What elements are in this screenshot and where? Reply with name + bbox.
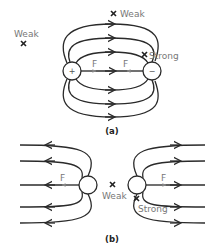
strong-label-a: Strong xyxy=(149,51,179,61)
left-charge xyxy=(79,176,97,194)
marker-weak-left: Weak xyxy=(14,29,39,46)
marker-strong-b: Strong xyxy=(134,196,168,214)
positive-charge: + xyxy=(63,62,81,80)
right-charge xyxy=(128,176,146,194)
force-arrows-a: F F xyxy=(81,59,143,71)
strong-label-b: Strong xyxy=(138,204,168,214)
force-label-left: F xyxy=(60,173,65,183)
cross-icon xyxy=(21,41,26,46)
marker-strong-a: Strong xyxy=(142,51,179,61)
cross-icon xyxy=(111,11,116,16)
cross-icon xyxy=(142,52,147,57)
weak-label-top: Weak xyxy=(120,9,145,19)
force-label-negative: F xyxy=(123,59,128,69)
negative-charge: − xyxy=(143,62,161,80)
weak-label-b: Weak xyxy=(102,191,127,201)
force-label-right: F xyxy=(161,173,166,183)
caption-a: (a) xyxy=(105,126,119,136)
force-label-positive: F xyxy=(92,59,97,69)
cross-icon xyxy=(110,182,115,187)
minus-sign: − xyxy=(149,67,156,76)
electric-field-diagram: F F + − Weak Weak xyxy=(0,0,217,252)
caption-b: (b) xyxy=(105,234,119,244)
weak-label-left: Weak xyxy=(14,29,39,39)
figure-a: F F + − Weak Weak xyxy=(14,9,179,136)
marker-weak-top: Weak xyxy=(111,9,145,19)
figure-b: F F Weak Strong (b) xyxy=(20,145,205,244)
marker-weak-b: Weak xyxy=(102,182,127,201)
plus-sign: + xyxy=(69,67,76,76)
